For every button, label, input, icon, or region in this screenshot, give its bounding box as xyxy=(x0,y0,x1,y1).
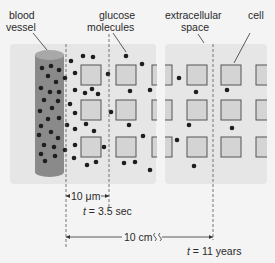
blood-vessel-label-2: vessel xyxy=(6,21,36,33)
cell-label: cell xyxy=(248,9,264,21)
short-distance-label: 10 μm xyxy=(71,190,101,202)
axis-break-icon xyxy=(154,233,162,241)
long-time-label: t = 11 years xyxy=(187,245,241,257)
glucose-label-1: glucose xyxy=(99,9,135,21)
glucose-label-2: molecules xyxy=(87,21,134,33)
glucose-diffusion-diagram: blood vessel glucose molecules extracell… xyxy=(0,0,275,263)
long-distance-measure: 10 cm xyxy=(66,231,213,243)
short-distance-measure: 10 μm xyxy=(66,190,109,202)
tissue-panel-right xyxy=(165,44,267,184)
extracellular-label-1: extracellular xyxy=(165,9,222,21)
blood-vessel xyxy=(35,50,64,177)
extracellular-label-2: space xyxy=(181,21,209,33)
blood-vessel-label-1: blood xyxy=(9,9,35,21)
short-time-label: t = 3.5 sec xyxy=(83,205,132,217)
long-distance-label: 10 cm xyxy=(124,231,153,243)
